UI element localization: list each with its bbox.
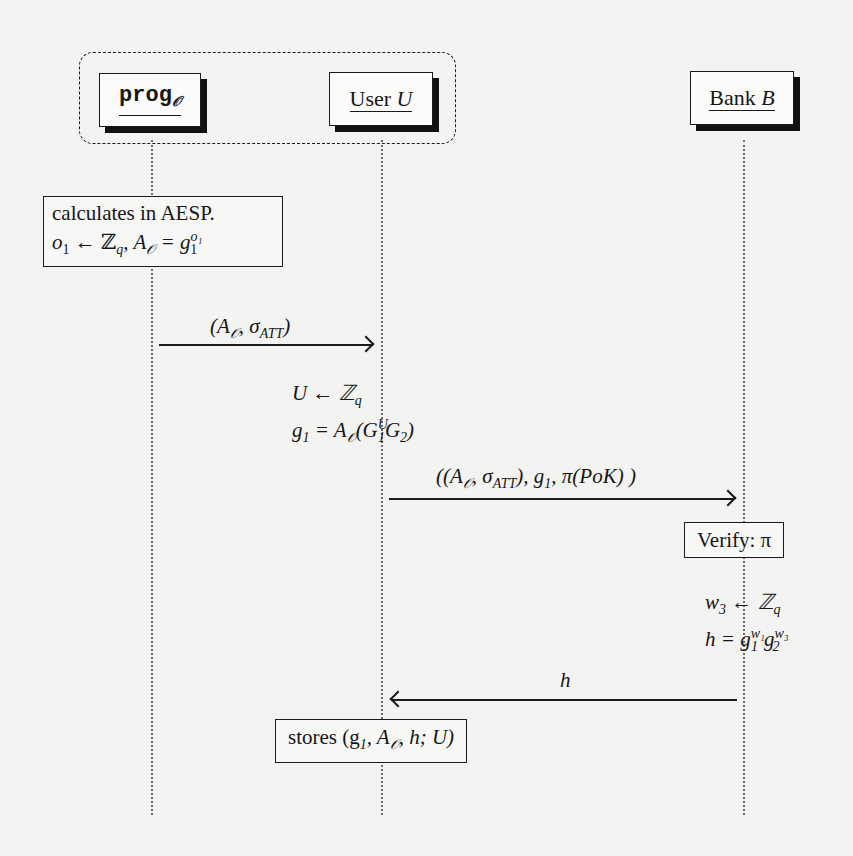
note-prog-calculation: calculates in AESP. o1 ← ℤq, A𝒪 = go₁1 bbox=[43, 196, 283, 267]
message-arrow-3 bbox=[391, 699, 737, 701]
message-arrow-2 bbox=[389, 498, 735, 500]
math-bank-calculation: w3 ← ℤq h = gw₁1gw₃2 bbox=[705, 590, 781, 659]
actor-bank-label: Bank B bbox=[709, 86, 774, 111]
arrowhead-right-icon bbox=[358, 336, 375, 353]
lifeline-bank bbox=[743, 140, 745, 815]
message-label-1: (A𝒪, σATT) bbox=[210, 314, 290, 342]
message-label-2: ((A𝒪, σATT), g1, π(PoK) ) bbox=[436, 464, 636, 492]
message-arrow-1 bbox=[159, 344, 373, 346]
math-line: h = gw₁1gw₃2 bbox=[705, 622, 781, 659]
lifeline-user bbox=[381, 140, 383, 815]
actor-user: User U bbox=[329, 72, 433, 126]
math-user-calculation: U ← ℤq g1 = A𝒪(GU1G2) bbox=[292, 381, 414, 450]
actor-bank: Bank B bbox=[690, 71, 794, 125]
message-label-3: h bbox=[560, 668, 571, 693]
note-line: calculates in AESP. bbox=[52, 201, 274, 225]
arrowhead-right-icon bbox=[720, 490, 737, 507]
math-line: g1 = A𝒪(GU1G2) bbox=[292, 413, 414, 450]
actor-user-label: User U bbox=[350, 87, 413, 112]
note-user-store: stores (g1, A𝒪, h; U) bbox=[275, 719, 467, 763]
math-line: w3 ← ℤq bbox=[705, 590, 781, 622]
math-line: U ← ℤq bbox=[292, 381, 414, 413]
note-bank-verify: Verify: π bbox=[684, 522, 784, 558]
note-line: o1 ← ℤq, A𝒪 = go₁1 bbox=[52, 225, 274, 262]
actor-prog-label: prog𝒪 bbox=[119, 84, 181, 115]
actor-prog: prog𝒪 bbox=[99, 73, 201, 127]
arrowhead-left-icon bbox=[390, 691, 407, 708]
